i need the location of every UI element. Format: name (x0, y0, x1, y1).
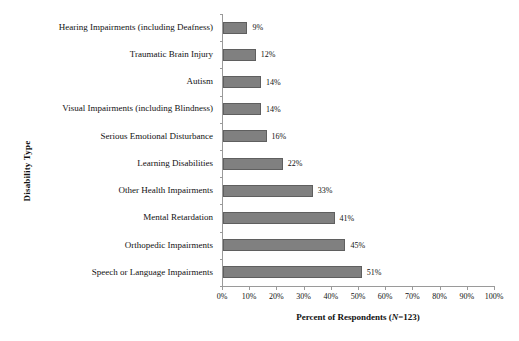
y-axis-tick-mark (220, 150, 223, 151)
bar-row: 33% (223, 177, 494, 204)
bar-chart: Disability Type Hearing Impairments (inc… (0, 0, 519, 341)
y-axis-category-label: Hearing Impairments (including Deafness) (36, 14, 218, 41)
x-axis-tick-mark (494, 286, 495, 290)
x-axis-tick-mark (412, 286, 413, 290)
bar-row: 12% (223, 41, 494, 68)
x-axis-tick-mark (249, 286, 250, 290)
y-axis-tick-mark (220, 204, 223, 205)
x-axis-tick-mark (304, 286, 305, 290)
bar-value-label: 41% (340, 214, 355, 223)
x-axis-tick-labels: 0%10%20%30%40%50%60%70%80%90%100% (222, 292, 494, 304)
x-axis-tick-mark (385, 286, 386, 290)
y-axis-tick-mark (220, 96, 223, 97)
bar-value-label: 51% (367, 268, 382, 277)
bar-row: 14% (223, 96, 494, 123)
y-axis-category-label: Autism (36, 68, 218, 95)
x-axis-title-suffix: =123) (398, 312, 420, 322)
y-axis-title-label: Disability Type (22, 140, 32, 201)
bar-row: 16% (223, 123, 494, 150)
plot-area: 9%12%14%14%16%22%33%41%45%51% (222, 14, 494, 286)
bar-value-label: 45% (350, 241, 365, 250)
bar (223, 22, 247, 34)
x-axis-tick-mark (276, 286, 277, 290)
y-axis-category-label: Visual Impairments (including Blindness) (36, 96, 218, 123)
x-axis-tick-marks (222, 286, 494, 290)
bar-value-label: 12% (261, 50, 276, 59)
x-axis-tick-label: 90% (459, 292, 474, 301)
bar (223, 130, 267, 142)
bar (223, 103, 261, 115)
bar-series: 9%12%14%14%16%22%33%41%45%51% (223, 14, 494, 286)
bar-row: 9% (223, 14, 494, 41)
x-axis-tick-mark (331, 286, 332, 290)
x-axis-tick-label: 40% (323, 292, 338, 301)
x-axis-tick-label: 10% (242, 292, 257, 301)
bar-value-label: 33% (318, 186, 333, 195)
bar (223, 185, 313, 197)
y-axis-category-label: Learning Disabilities (36, 150, 218, 177)
bar-value-label: 9% (252, 23, 263, 32)
y-axis-category-label: Mental Retardation (36, 204, 218, 231)
x-axis-tick-label: 100% (485, 292, 504, 301)
x-axis-tick-mark (222, 286, 223, 290)
x-axis-tick-label: 50% (351, 292, 366, 301)
x-axis-tick-mark (358, 286, 359, 290)
y-axis-category-labels: Hearing Impairments (including Deafness)… (36, 14, 218, 286)
y-axis-tick-mark (220, 123, 223, 124)
x-axis-tick-mark (440, 286, 441, 290)
bar-value-label: 22% (288, 159, 303, 168)
y-axis-tick-mark (220, 41, 223, 42)
y-axis-tick-mark (220, 259, 223, 260)
bar (223, 158, 283, 170)
x-axis-tick-label: 70% (405, 292, 420, 301)
bar-row: 14% (223, 68, 494, 95)
bar-row: 51% (223, 259, 494, 286)
y-axis-category-label: Speech or Language Impairments (36, 259, 218, 286)
x-axis-tick-label: 20% (269, 292, 284, 301)
x-axis-tick-label: 60% (378, 292, 393, 301)
y-axis-tick-mark (220, 14, 223, 15)
x-axis-tick-label: 0% (217, 292, 228, 301)
y-axis-tick-mark (220, 232, 223, 233)
y-axis-category-label: Other Health Impairments (36, 177, 218, 204)
bar-row: 41% (223, 204, 494, 231)
x-axis-title-prefix: Percent of Respondents ( (296, 312, 392, 322)
bar (223, 212, 335, 224)
bar (223, 49, 256, 61)
bar-value-label: 14% (266, 105, 281, 114)
bar (223, 76, 261, 88)
y-axis-category-label: Orthopedic Impairments (36, 232, 218, 259)
x-axis-tick-label: 80% (432, 292, 447, 301)
y-axis-tick-mark (220, 177, 223, 178)
bar (223, 266, 362, 278)
bar-row: 45% (223, 232, 494, 259)
y-axis-category-label: Traumatic Brain Injury (36, 41, 218, 68)
bar-value-label: 16% (272, 132, 287, 141)
x-axis-tick-label: 30% (296, 292, 311, 301)
x-axis-tick-mark (467, 286, 468, 290)
y-axis-title: Disability Type (16, 0, 38, 341)
bar (223, 239, 345, 251)
x-axis-title: Percent of Respondents (N=123) (222, 312, 494, 322)
y-axis-tick-mark (220, 68, 223, 69)
bar-row: 22% (223, 150, 494, 177)
bar-value-label: 14% (266, 78, 281, 87)
y-axis-category-label: Serious Emotional Disturbance (36, 123, 218, 150)
